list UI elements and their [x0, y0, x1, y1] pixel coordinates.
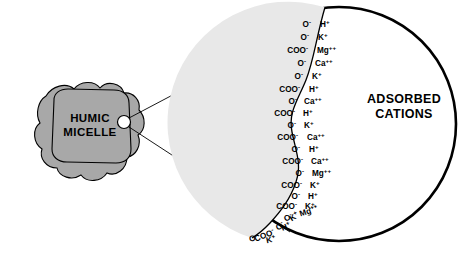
magnification-source-circle [118, 116, 131, 129]
anion-label: COO- [274, 107, 295, 118]
diagram-canvas: HUMIC MICELLE ADSORBED CATIONS O- H+ [0, 0, 465, 261]
magnified-view-group: ADSORBED CATIONS O- H+ O- K+ COO- Mg++ O… [168, 2, 456, 249]
anion-label: COO- [279, 83, 300, 94]
anion-label: COO- [281, 179, 302, 190]
anion-label: COO- [287, 44, 308, 55]
adsorbed-heading-line1: ADSORBED [367, 92, 441, 106]
adsorbed-heading-line2: CATIONS [375, 107, 432, 121]
anion-label: COO- [282, 155, 303, 166]
anion-label: COO- [277, 131, 298, 142]
humic-micelle-group: HUMIC MICELLE [35, 82, 145, 180]
micelle-title-line1: HUMIC [70, 112, 110, 124]
humic-micelle-diagram: HUMIC MICELLE ADSORBED CATIONS O- H+ [0, 0, 465, 261]
micelle-title-line2: MICELLE [63, 126, 116, 138]
